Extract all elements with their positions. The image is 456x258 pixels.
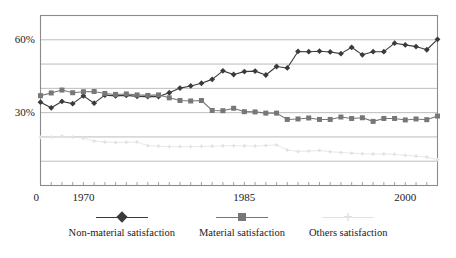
x-tick-label-0: 0: [16, 191, 56, 203]
series-layer: [38, 36, 441, 161]
star-marker-icon: [344, 213, 352, 221]
x-tick-label-1985: 1985: [224, 191, 264, 203]
legend-item-others[interactable]: Others satisfaction: [309, 212, 387, 238]
legend-item-non-material[interactable]: Non-material satisfaction: [69, 212, 175, 238]
legend-symbol-material: [216, 212, 268, 224]
legend-label-others: Others satisfaction: [309, 227, 387, 238]
legend-item-material[interactable]: Material satisfaction: [199, 212, 285, 238]
x-tick-label-1970: 1970: [63, 191, 103, 203]
square-marker-icon: [238, 213, 246, 221]
x-tick-label-2000: 2000: [385, 191, 425, 203]
chart-legend: Non-material satisfaction Material satis…: [0, 212, 456, 252]
legend-symbol-others: [322, 212, 374, 224]
plot-frame: [41, 16, 438, 186]
gridlines-group: [41, 40, 438, 161]
legend-label-material: Material satisfaction: [199, 227, 285, 238]
y-tick-label-60: 60%: [2, 33, 35, 45]
series-star: [39, 134, 440, 161]
series-diamond: [38, 36, 441, 110]
satisfaction-line-chart: 60% 30% 0 1970 1985 2000 Non-material sa…: [0, 0, 456, 258]
series-square: [38, 88, 440, 124]
y-tick-label-30: 30%: [2, 106, 35, 118]
legend-label-non-material: Non-material satisfaction: [69, 227, 175, 238]
legend-symbol-non-material: [96, 212, 148, 224]
diamond-marker-icon: [116, 211, 127, 222]
